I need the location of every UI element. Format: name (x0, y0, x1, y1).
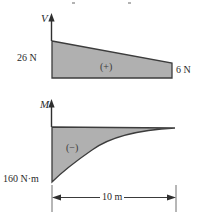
moment-area-negative (52, 127, 175, 182)
moment-left-value-label: 160 N·m (3, 174, 39, 184)
dimension-arrow-right (167, 195, 176, 201)
dimension-arrow-left (52, 195, 61, 201)
shear-axis-arrowhead (48, 13, 54, 22)
diagram-canvas (0, 0, 204, 220)
shear-left-value-label: 26 N (17, 53, 37, 63)
shear-right-value-label: 6 N (176, 65, 191, 75)
shear-sign-label: (+) (100, 62, 112, 72)
shear-axis-label: V (41, 13, 48, 24)
moment-axis-arrowhead (48, 99, 54, 108)
shear-axis (48, 13, 54, 41)
shear-moment-figure: V 26 N 6 N (+) M 160 N·m (−) 10 m (0, 0, 204, 220)
shear-area-positive (52, 41, 172, 78)
moment-axis-label: M (40, 99, 49, 110)
moment-sign-label: (−) (66, 143, 78, 153)
moment-axis (48, 99, 54, 127)
span-length-label: 10 m (100, 192, 124, 202)
